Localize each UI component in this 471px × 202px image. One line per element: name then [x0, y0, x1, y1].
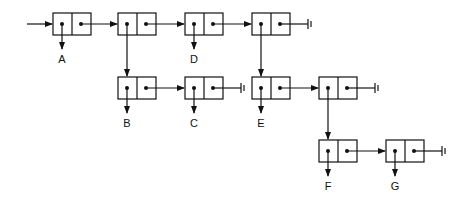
linked-list-diagram: A D B C E F G: [0, 0, 471, 202]
atom-label-g: G: [391, 180, 400, 192]
atom-label-f: F: [325, 180, 332, 192]
atom-label-e: E: [257, 117, 264, 129]
atom-label-d: D: [190, 53, 198, 65]
diagram-svg: A D B C E F G: [0, 0, 471, 202]
atom-label-a: A: [58, 53, 66, 65]
atom-label-c: C: [190, 117, 198, 129]
atom-label-b: B: [123, 117, 130, 129]
